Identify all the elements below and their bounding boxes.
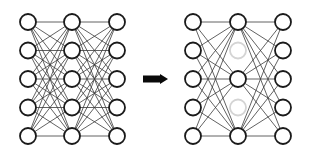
right-network <box>185 14 291 144</box>
diagram-canvas <box>0 0 309 158</box>
neuron <box>275 14 291 30</box>
left-network <box>20 14 125 144</box>
dropped-neuron <box>230 43 246 59</box>
neuron <box>20 14 36 30</box>
neuron <box>64 71 80 87</box>
neuron <box>20 71 36 87</box>
neuron <box>185 71 201 87</box>
neuron <box>109 71 125 87</box>
left-network-nodes <box>20 14 125 144</box>
neuron <box>275 100 291 116</box>
neuron <box>275 43 291 59</box>
neuron <box>230 71 246 87</box>
neuron <box>230 14 246 30</box>
connection-edge <box>238 51 283 137</box>
right-network-nodes <box>185 14 291 144</box>
connection-edge <box>193 22 238 108</box>
arrow-icon <box>143 74 168 84</box>
neuron <box>185 14 201 30</box>
dropout-diagram <box>0 0 309 158</box>
neuron <box>185 100 201 116</box>
neuron <box>20 43 36 59</box>
neuron <box>275 128 291 144</box>
neuron <box>109 128 125 144</box>
neuron <box>230 128 246 144</box>
neuron <box>109 100 125 116</box>
neuron <box>185 128 201 144</box>
neuron <box>64 100 80 116</box>
dropped-neuron <box>230 100 246 116</box>
neuron <box>20 128 36 144</box>
neuron <box>64 14 80 30</box>
neuron <box>185 43 201 59</box>
neuron <box>275 71 291 87</box>
neuron <box>64 43 80 59</box>
neuron <box>64 128 80 144</box>
neuron <box>109 14 125 30</box>
neuron <box>109 43 125 59</box>
neuron <box>20 100 36 116</box>
